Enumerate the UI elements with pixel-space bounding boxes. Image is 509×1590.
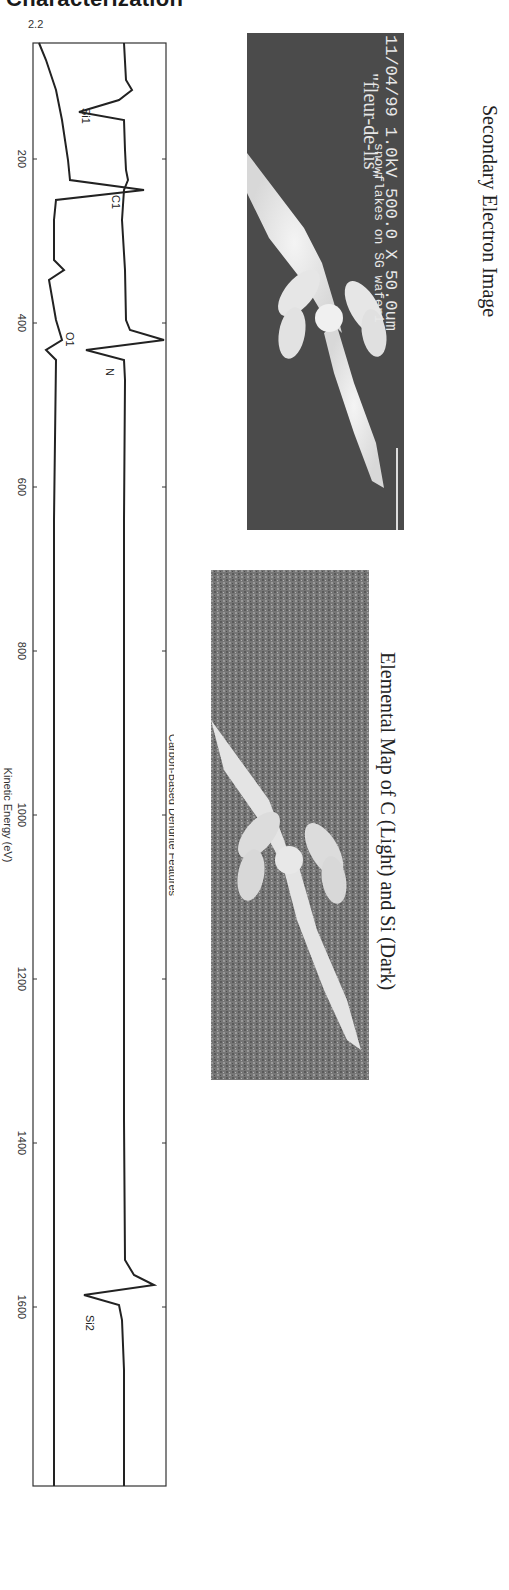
svg-text:2.2: 2.2 (28, 20, 43, 30)
elemental-map-image (211, 570, 369, 1080)
map-panel-title: Elemental Map of C (Light) and Si (Dark) (376, 652, 399, 990)
sem-image: "fleur-de-lis" 11/04/99 1.0kV 500.0 X 50… (247, 33, 404, 530)
dendrite-map-shape (211, 570, 369, 1080)
sem-sample-line: snowflakes on SG wafer1 (371, 143, 386, 322)
svg-text:Si1: Si1 (80, 108, 92, 124)
svg-text:1600: 1600 (16, 1295, 28, 1319)
svg-text:400: 400 (16, 314, 28, 332)
svg-text:200: 200 (16, 150, 28, 168)
chart-title: Carbon-Based Dendrite Features (167, 734, 174, 897)
svg-text:1000: 1000 (16, 803, 28, 827)
spectrum-chart: 200 400 600 800 1000 1200 1400 1600 Kine… (4, 20, 174, 1590)
x-axis-label: Kinetic Energy (eV) (2, 768, 14, 863)
svg-text:1200: 1200 (16, 967, 28, 991)
y-tick-labels: 2.2 (28, 20, 43, 30)
svg-text:Si2: Si2 (84, 1315, 96, 1331)
sem-panel-title: Secondary Electron Image (478, 105, 501, 317)
spectrum-svg: 200 400 600 800 1000 1200 1400 1600 Kine… (0, 20, 174, 1590)
svg-text:O1: O1 (64, 332, 76, 347)
x-tick-labels: 200 400 600 800 1000 1200 1400 1600 (16, 150, 28, 1319)
svg-text:C1: C1 (110, 195, 122, 209)
svg-text:600: 600 (16, 478, 28, 496)
peak-labels: Si1 C1 N O1 Si2 (64, 108, 122, 1331)
svg-text:N: N (104, 368, 116, 376)
svg-text:800: 800 (16, 642, 28, 660)
figure-characterization: Secondary Electron Image "fleur-de-lis" … (0, 0, 509, 1590)
svg-text:1400: 1400 (16, 1131, 28, 1155)
scale-bar (396, 448, 398, 530)
